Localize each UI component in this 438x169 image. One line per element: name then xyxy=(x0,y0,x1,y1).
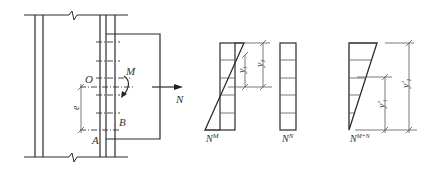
nn-label: NN xyxy=(281,132,294,144)
bolt-rows xyxy=(80,42,134,130)
axial-distribution: NN xyxy=(280,43,296,144)
axial-force-label: N xyxy=(175,93,184,105)
moment-label: M xyxy=(125,65,136,77)
bolted-connection-diagram: e O A B M N NM yi y1 xyxy=(0,0,438,169)
yi-label: yi xyxy=(236,67,248,74)
combined-distribution: NM+N y'i y'1 xyxy=(349,40,417,144)
top-break-line xyxy=(24,11,128,20)
y1-prime-label: y'1 xyxy=(400,78,412,89)
center-o-label: O xyxy=(85,73,93,85)
point-a-label: A xyxy=(91,134,99,146)
nmn-label: NM+N xyxy=(349,133,371,144)
moment-distribution: NM yi y1 xyxy=(205,40,272,144)
yi-prime-label: y'i xyxy=(376,99,388,109)
bottom-break-line xyxy=(24,153,128,162)
point-b-label: B xyxy=(119,116,126,128)
y1-label: y1 xyxy=(254,60,266,68)
connection-elevation: e O A B M N xyxy=(24,11,184,162)
nm-label: NM xyxy=(205,132,220,144)
moment-arrow-icon xyxy=(124,76,129,95)
bracket-plate xyxy=(106,34,160,139)
eccentricity-label: e xyxy=(70,105,81,110)
